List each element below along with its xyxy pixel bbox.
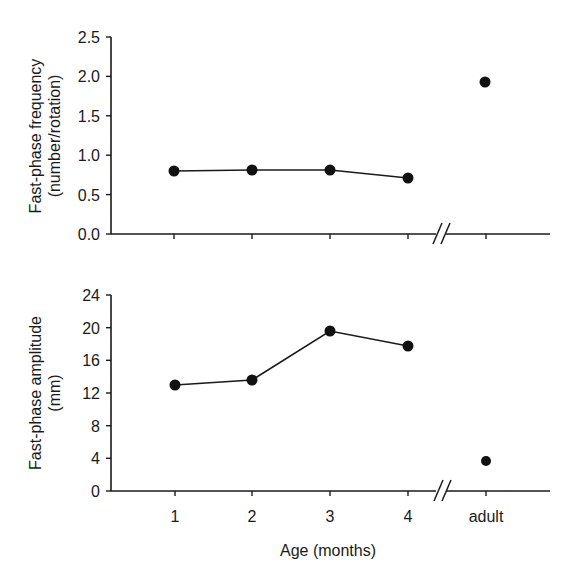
- x-axis-title: Age (months): [280, 542, 376, 559]
- xtick-4: 4: [404, 508, 413, 525]
- figure: 2.5 2.0 1.5 1.0 0.5 0.0 Fast-phase frequ…: [0, 0, 566, 575]
- bottom-ytick-12: 12: [82, 385, 100, 402]
- bottom-y-axis-title: Fast-phase amplitude (mm): [27, 316, 63, 470]
- top-point-3: [325, 165, 336, 176]
- bottom-ytick-4: 4: [91, 450, 100, 467]
- svg-text:(mm): (mm): [46, 374, 63, 411]
- bottom-point-3: [325, 326, 336, 337]
- xtick-1: 1: [171, 508, 180, 525]
- top-point-2: [247, 165, 258, 176]
- svg-text:(number/rotation): (number/rotation): [46, 75, 63, 198]
- bottom-point-2: [247, 375, 258, 386]
- bottom-point-4: [403, 341, 414, 352]
- xtick-3: 3: [326, 508, 335, 525]
- top-data-points: [169, 77, 491, 184]
- bottom-ytick-20: 20: [82, 320, 100, 337]
- bottom-point-1: [170, 380, 181, 391]
- bottom-y-tick-labels: 24 20 16 12 8 4 0: [82, 287, 100, 500]
- top-series-line: [174, 170, 408, 178]
- x-tick-labels: 1 2 3 4 adult: [171, 508, 504, 525]
- top-ytick-0.5: 0.5: [78, 187, 100, 204]
- bottom-ytick-8: 8: [91, 418, 100, 435]
- xtick-2: 2: [248, 508, 257, 525]
- top-point-adult: [480, 77, 491, 88]
- bottom-ytick-16: 16: [82, 352, 100, 369]
- xtick-adult: adult: [469, 508, 504, 525]
- bottom-ytick-24: 24: [82, 287, 100, 304]
- bottom-panel: 24 20 16 12 8 4 0 Fast-phase amplitude (…: [27, 287, 550, 559]
- bottom-ytick-0: 0: [91, 483, 100, 500]
- top-point-4: [403, 173, 414, 184]
- svg-text:Fast-phase frequency: Fast-phase frequency: [27, 59, 44, 214]
- top-point-1: [169, 166, 180, 177]
- top-ytick-0.0: 0.0: [78, 226, 100, 243]
- top-y-axis-title: Fast-phase frequency (number/rotation): [27, 59, 63, 214]
- top-y-tick-labels: 2.5 2.0 1.5 1.0 0.5 0.0: [78, 29, 100, 243]
- bottom-data-points: [170, 326, 492, 467]
- bottom-series-line: [175, 331, 408, 385]
- top-panel: 2.5 2.0 1.5 1.0 0.5 0.0 Fast-phase frequ…: [27, 29, 550, 244]
- top-ytick-1.5: 1.5: [78, 108, 100, 125]
- top-ytick-2.5: 2.5: [78, 29, 100, 46]
- svg-text:Fast-phase amplitude: Fast-phase amplitude: [27, 316, 44, 470]
- top-ytick-1.0: 1.0: [78, 147, 100, 164]
- top-ytick-2.0: 2.0: [78, 68, 100, 85]
- bottom-point-adult: [481, 456, 491, 466]
